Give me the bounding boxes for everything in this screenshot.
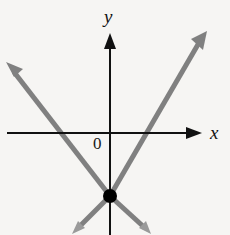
falling-line-upper-arrowhead (6, 62, 23, 77)
falling-line-lower-segment (110, 196, 145, 228)
graph-figure: y x 0 (0, 0, 230, 235)
x-axis-label: x (210, 123, 218, 142)
x-axis-arrowhead (186, 127, 202, 139)
y-axis-arrowhead (104, 33, 116, 49)
graph-canvas (0, 0, 230, 235)
rising-line-upper-segment (110, 41, 200, 196)
origin-label: 0 (93, 135, 102, 152)
intersection-point-marker (103, 189, 117, 203)
y-axis-label: y (104, 7, 112, 26)
